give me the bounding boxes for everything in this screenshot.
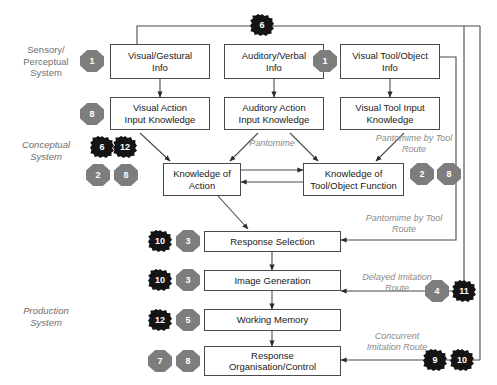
badge-tool-1[interactable]: 1 bbox=[313, 50, 337, 72]
badge-image-generation-10[interactable]: 10 bbox=[148, 269, 172, 291]
badge-response-org-7[interactable]: 7 bbox=[148, 350, 172, 372]
badge-top-6[interactable]: 6 bbox=[250, 14, 274, 36]
box-knowledge-of-tool-object-function[interactable]: Knowledge of Tool/Object Function bbox=[303, 163, 404, 196]
system-label-production: Production System bbox=[6, 305, 86, 328]
arrow-visual-action-to-knowledge-action bbox=[140, 133, 170, 161]
badge-tool-function-8[interactable]: 8 bbox=[437, 163, 461, 185]
badge-visual-action-8[interactable]: 8 bbox=[80, 103, 104, 125]
box-visual-tool-input-knowledge[interactable]: Visual Tool Input Knowledge bbox=[340, 97, 440, 130]
badge-concurrent-9[interactable]: 9 bbox=[423, 349, 447, 371]
badge-conceptual-2[interactable]: 2 bbox=[86, 164, 110, 186]
system-label-conceptual: Conceptual System bbox=[6, 139, 86, 162]
badge-conceptual-12[interactable]: 12 bbox=[113, 136, 137, 158]
diagram-canvas: Sensory/ Perceptual System Conceptual Sy… bbox=[0, 0, 497, 385]
line-top-feedback-bus bbox=[137, 26, 480, 44]
box-response-selection[interactable]: Response Selection bbox=[204, 231, 341, 252]
box-visual-tool-object-info[interactable]: Visual Tool/Object Info bbox=[340, 44, 440, 79]
box-visual-action-input-knowledge[interactable]: Visual Action Input Knowledge bbox=[110, 97, 210, 130]
badge-image-generation-3[interactable]: 3 bbox=[176, 269, 200, 291]
box-auditory-action-input-knowledge[interactable]: Auditory Action Input Knowledge bbox=[224, 97, 324, 130]
badge-working-memory-5[interactable]: 5 bbox=[176, 309, 200, 331]
route-label-pantomime-by-tool-lower: Pantomime by Tool Route bbox=[356, 213, 452, 234]
box-auditory-verbal-info[interactable]: Auditory/Verbal Info bbox=[224, 44, 324, 79]
badge-response-selection-3[interactable]: 3 bbox=[176, 230, 200, 252]
badge-concurrent-10[interactable]: 10 bbox=[450, 349, 474, 371]
badge-tool-function-2[interactable]: 2 bbox=[410, 163, 434, 185]
badge-delayed-11[interactable]: 11 bbox=[452, 280, 476, 302]
box-image-generation[interactable]: Image Generation bbox=[204, 270, 341, 291]
badge-sensory-1[interactable]: 1 bbox=[80, 50, 104, 72]
box-knowledge-of-action[interactable]: Knowledge of Action bbox=[163, 163, 241, 196]
box-working-memory[interactable]: Working Memory bbox=[204, 309, 341, 331]
box-response-organisation-control[interactable]: Response Organisation/Control bbox=[204, 346, 341, 376]
route-label-pantomime: Pantomime bbox=[232, 138, 312, 149]
badge-conceptual-8[interactable]: 8 bbox=[114, 164, 138, 186]
badge-response-org-8[interactable]: 8 bbox=[176, 350, 200, 372]
box-visual-gestural-info[interactable]: Visual/Gestural Info bbox=[110, 44, 210, 79]
badge-response-selection-10[interactable]: 10 bbox=[148, 230, 172, 252]
system-label-sensory: Sensory/ Perceptual System bbox=[6, 44, 86, 79]
route-label-pantomime-by-tool-upper: Pantomime by Tool Route bbox=[366, 133, 462, 154]
arrow-knowledge-action-to-response-selection bbox=[218, 196, 248, 229]
badge-conceptual-6[interactable]: 6 bbox=[90, 136, 114, 158]
badge-delayed-4[interactable]: 4 bbox=[425, 280, 449, 302]
badge-working-memory-12[interactable]: 12 bbox=[148, 309, 172, 331]
